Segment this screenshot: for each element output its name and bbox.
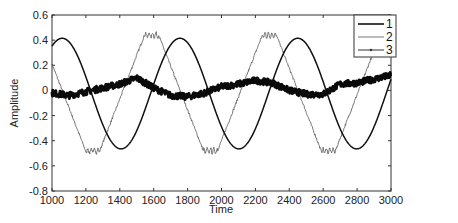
y-tick-label: -0.2 [29,110,48,122]
line-chart: 1000120014001600180020002200240026002800… [0,0,458,223]
legend-label-2: 2 [386,30,393,44]
x-tick-label: 1200 [74,194,98,206]
y-tick-label: 0.6 [33,9,48,21]
legend-label-1: 1 [386,17,393,31]
y-axis-title: Amplitude [8,79,20,128]
legend: 1 2 3 [354,15,396,57]
x-tick-label: 2400 [277,194,301,206]
legend-label-3: 3 [386,43,393,57]
y-tick-label: 0 [42,84,48,96]
x-axis-title: Time [209,203,233,215]
y-tick-label: -0.4 [29,135,48,147]
x-tick-label: 2200 [243,194,267,206]
x-tick-label: 1400 [108,194,132,206]
plot-frame [52,15,391,191]
x-tick-label: 1600 [141,194,165,206]
x-tick-label: 1800 [175,194,199,206]
y-tick-label: -0.6 [29,160,48,172]
y-tick-label: -0.8 [29,185,48,197]
x-tick-label: 2800 [345,194,369,206]
x-tick-label: 2600 [311,194,335,206]
legend-marker-3 [370,49,372,51]
y-tick-label: 0.4 [33,34,48,46]
x-tick-label: 3000 [379,194,403,206]
y-tick-label: 0.2 [33,59,48,71]
